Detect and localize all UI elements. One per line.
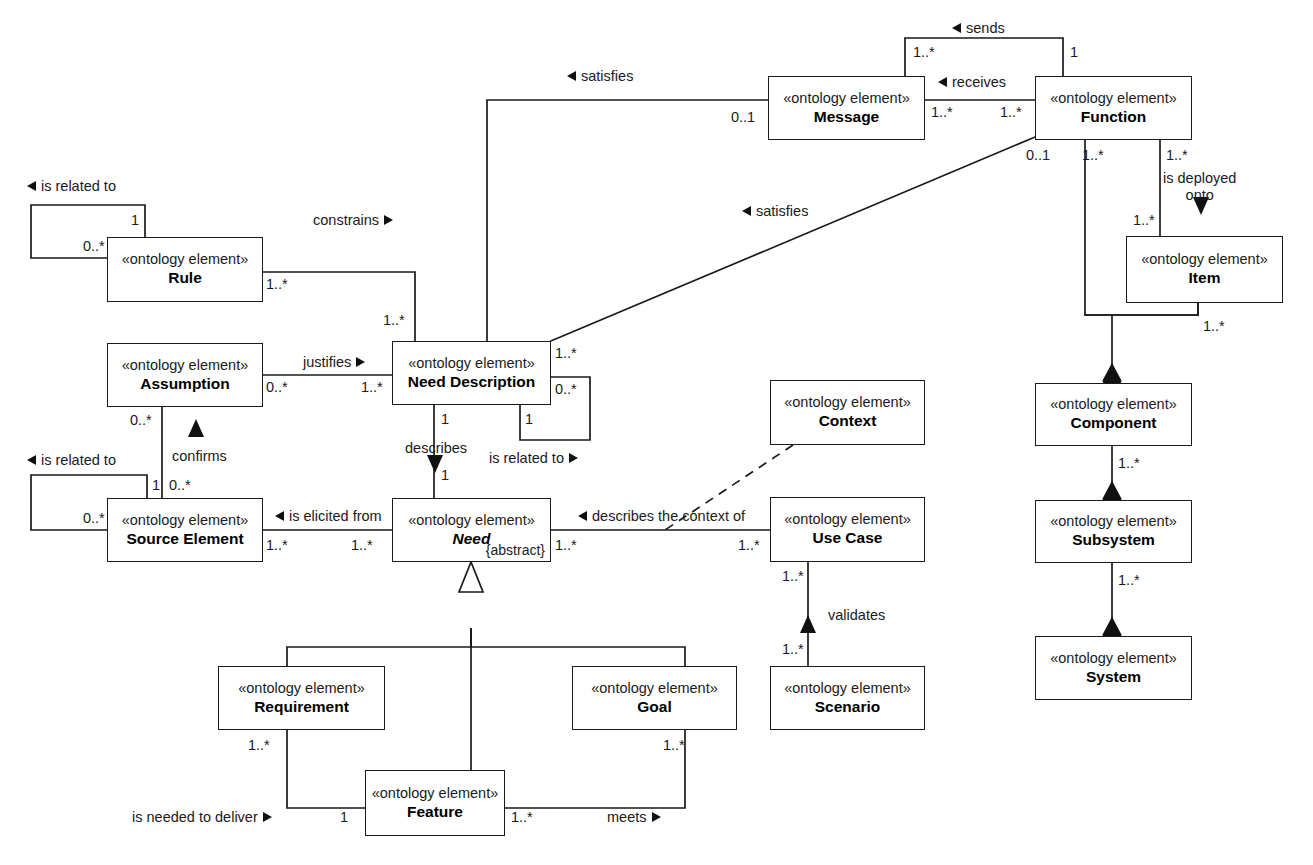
class-stereotype: «ontology element» bbox=[1050, 90, 1177, 107]
uml-class-diagram: «ontology element» Message «ontology ele… bbox=[0, 0, 1313, 865]
mult-feature-right: 1..* bbox=[511, 809, 533, 825]
class-feature[interactable]: «ontology element» Feature bbox=[365, 770, 505, 836]
class-name: System bbox=[1086, 668, 1141, 686]
class-need-description[interactable]: «ontology element» Need Description bbox=[392, 341, 551, 405]
mult-confirms-assumption: 0..* bbox=[130, 412, 152, 428]
class-assumption[interactable]: «ontology element» Assumption bbox=[107, 343, 263, 407]
abstract-tag: {abstract} bbox=[486, 542, 545, 559]
mult-describes-need: 1 bbox=[441, 467, 449, 483]
label-line-2: onto bbox=[1163, 187, 1236, 204]
mult-function-item-a: 1..* bbox=[1082, 147, 1104, 163]
arrow-left-icon bbox=[27, 181, 36, 191]
label-sends: sends bbox=[952, 20, 1005, 36]
mult-source-loop: 0..* bbox=[83, 510, 105, 526]
mult-rule-loop-many: 0..* bbox=[83, 238, 105, 254]
class-stereotype: «ontology element» bbox=[591, 680, 718, 697]
mult-subsystem-system: 1..* bbox=[1118, 572, 1140, 588]
mult-sends-message: 1..* bbox=[913, 44, 935, 60]
class-rule[interactable]: «ontology element» Rule bbox=[107, 237, 263, 302]
mult-receives-message: 1..* bbox=[931, 104, 953, 120]
class-stereotype: «ontology element» bbox=[408, 355, 535, 372]
mult-constrains-need-desc: 1..* bbox=[383, 312, 405, 328]
label-is-deployed-onto: is deployed onto bbox=[1163, 170, 1236, 203]
arrow-left-icon bbox=[275, 511, 284, 521]
generalization-triangle-need bbox=[459, 562, 483, 592]
class-system[interactable]: «ontology element» System bbox=[1035, 636, 1192, 700]
assoc-satisfies-message bbox=[487, 100, 768, 341]
class-component[interactable]: «ontology element» Component bbox=[1035, 383, 1192, 446]
label-is-elicited-from: is elicited from bbox=[275, 508, 382, 524]
mult-satisfies-need-desc: 1..* bbox=[555, 345, 577, 361]
label-is-related-to-source: is related to bbox=[27, 452, 116, 468]
mult-item-bottom: 1..* bbox=[1203, 318, 1225, 334]
arrow-right-icon bbox=[384, 215, 393, 225]
mult-rule-loop-one: 1 bbox=[131, 212, 139, 228]
label-is-needed-to-deliver: is needed to deliver bbox=[132, 809, 272, 825]
class-name: Message bbox=[814, 108, 879, 126]
arrowhead-validates bbox=[800, 615, 816, 633]
class-stereotype: «ontology element» bbox=[122, 357, 249, 374]
class-stereotype: «ontology element» bbox=[1050, 650, 1177, 667]
class-stereotype: «ontology element» bbox=[784, 680, 911, 697]
arrow-right-icon bbox=[652, 812, 661, 822]
class-name: Context bbox=[819, 412, 877, 430]
mult-elicited-source: 1..* bbox=[266, 537, 288, 553]
label-is-related-to-rule: is related to bbox=[27, 178, 116, 194]
class-need[interactable]: «ontology element» Need {abstract} bbox=[392, 498, 551, 562]
mult-requirement-feature: 1..* bbox=[248, 737, 270, 753]
arrow-left-icon bbox=[952, 23, 961, 33]
assoc-is-needed-to-deliver bbox=[287, 730, 365, 808]
label-describes: describes bbox=[405, 440, 467, 456]
assoc-meets bbox=[505, 730, 685, 808]
arrow-right-icon bbox=[356, 357, 365, 367]
label-receives: receives bbox=[938, 74, 1006, 90]
mult-function-item-b: 1..* bbox=[1166, 147, 1188, 163]
label-describes-the-context-of: describes the context of bbox=[578, 508, 745, 524]
gen-need-to-requirement bbox=[287, 629, 471, 666]
label-line-1: is deployed bbox=[1163, 170, 1236, 187]
mult-satisfies-message-need-desc: 0..1 bbox=[731, 109, 755, 125]
class-name: Source Element bbox=[126, 530, 243, 548]
class-stereotype: «ontology element» bbox=[122, 512, 249, 529]
label-justifies: justifies bbox=[303, 354, 365, 370]
class-name: Subsystem bbox=[1072, 531, 1155, 549]
class-requirement[interactable]: «ontology element» Requirement bbox=[218, 666, 385, 730]
mult-context-use-case: 1..* bbox=[738, 537, 760, 553]
class-stereotype: «ontology element» bbox=[1141, 251, 1268, 268]
class-name: Assumption bbox=[140, 375, 230, 393]
class-scenario[interactable]: «ontology element» Scenario bbox=[770, 666, 925, 730]
label-validates: validates bbox=[828, 607, 885, 623]
mult-need-desc-loop-one: 1 bbox=[525, 411, 533, 427]
class-stereotype: «ontology element» bbox=[784, 394, 911, 411]
class-context[interactable]: «ontology element» Context bbox=[770, 380, 925, 445]
class-source-element[interactable]: «ontology element» Source Element bbox=[107, 498, 263, 562]
class-name: Goal bbox=[637, 698, 671, 716]
class-function[interactable]: «ontology element» Function bbox=[1035, 76, 1192, 140]
mult-confirms-source-one: 1 bbox=[152, 477, 160, 493]
class-name: Need bbox=[453, 530, 491, 548]
arrowhead-confirms bbox=[188, 419, 204, 437]
class-subsystem[interactable]: «ontology element» Subsystem bbox=[1035, 500, 1192, 563]
arrow-left-icon bbox=[742, 206, 751, 216]
class-goal[interactable]: «ontology element» Goal bbox=[572, 666, 737, 730]
class-name: Requirement bbox=[254, 698, 349, 716]
mult-satisfies-function-left: 0..1 bbox=[1026, 147, 1050, 163]
mult-justifies-assumption: 0..* bbox=[266, 379, 288, 395]
class-stereotype: «ontology element» bbox=[372, 785, 499, 802]
mult-rule-constrains: 1..* bbox=[266, 276, 288, 292]
mult-feature-left: 1 bbox=[340, 809, 348, 825]
class-use-case[interactable]: «ontology element» Use Case bbox=[770, 497, 925, 562]
class-message[interactable]: «ontology element» Message bbox=[768, 76, 925, 140]
class-name: Need Description bbox=[408, 373, 535, 391]
class-name: Component bbox=[1070, 414, 1156, 432]
arrow-right-icon bbox=[569, 453, 578, 463]
assoc-satisfies-function bbox=[551, 137, 1035, 341]
mult-elicited-need: 1..* bbox=[351, 537, 373, 553]
class-item[interactable]: «ontology element» Item bbox=[1126, 236, 1283, 303]
label-satisfies-function: satisfies bbox=[742, 203, 808, 219]
class-stereotype: «ontology element» bbox=[784, 511, 911, 528]
mult-item-top: 1..* bbox=[1133, 212, 1155, 228]
class-stereotype: «ontology element» bbox=[783, 90, 910, 107]
arrow-right-icon bbox=[263, 812, 272, 822]
class-name: Use Case bbox=[813, 529, 883, 547]
